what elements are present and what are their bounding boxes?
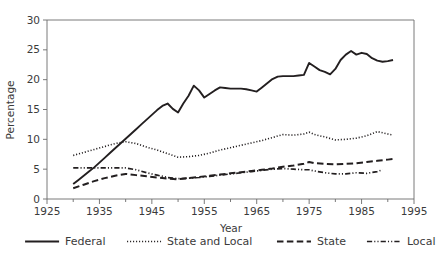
y-tick-label: 10 <box>27 133 40 145</box>
y-tick-label: 15 <box>27 103 40 115</box>
y-tick-label: 25 <box>27 43 40 55</box>
x-tick-label: 1995 <box>401 205 428 217</box>
y-axis-title: Percentage <box>4 80 16 139</box>
legend-label: State <box>317 235 346 248</box>
x-tick-label: 1925 <box>34 205 61 217</box>
x-tick-label: 1935 <box>86 205 113 217</box>
y-tick-label: 20 <box>27 73 40 85</box>
line-chart: 051015202530 192519351945195519651975198… <box>0 0 437 256</box>
x-axis-title: Year <box>219 222 243 234</box>
x-tick-label: 1955 <box>191 205 218 217</box>
legend-label: Local <box>407 235 436 248</box>
x-tick-label: 1975 <box>296 205 323 217</box>
x-tick-label: 1965 <box>243 205 270 217</box>
y-tick-label: 0 <box>33 193 40 205</box>
chart-background <box>0 0 437 256</box>
x-tick-label: 1985 <box>348 205 375 217</box>
legend-label: State and Local <box>167 235 252 248</box>
x-tick-label: 1945 <box>138 205 165 217</box>
y-tick-label: 5 <box>33 163 40 175</box>
chart-container: 051015202530 192519351945195519651975198… <box>0 0 437 256</box>
legend-label: Federal <box>65 235 106 248</box>
y-tick-label: 30 <box>27 14 40 26</box>
